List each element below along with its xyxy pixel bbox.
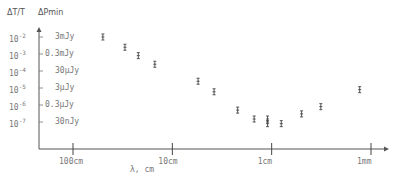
x-tick-label: 1cm bbox=[258, 158, 272, 166]
x-axis-title: λ, cm bbox=[130, 166, 154, 174]
axes bbox=[37, 27, 390, 152]
y-tick-label: 10-7 bbox=[9, 118, 26, 129]
error-bar-point bbox=[358, 87, 361, 93]
error-bar-point bbox=[213, 89, 216, 95]
error-bar-point bbox=[197, 78, 200, 84]
x-tick-label: 100cm bbox=[59, 158, 83, 166]
error-bar-point bbox=[137, 53, 140, 59]
error-bar-point bbox=[236, 107, 239, 113]
y-flux-label: 3μJy bbox=[55, 84, 74, 92]
error-bar-point bbox=[123, 44, 126, 50]
y-tick-label: 10-6 bbox=[9, 101, 26, 112]
x-axis-arrow-icon bbox=[384, 147, 389, 152]
y-tick-label: 10-4 bbox=[9, 67, 26, 78]
y-flux-label: 0.3mJy bbox=[45, 50, 74, 58]
x-tick-label: 1mm bbox=[357, 158, 371, 166]
y-flux-label: 30nJy bbox=[55, 118, 79, 126]
data-points bbox=[101, 34, 361, 127]
error-bar-point bbox=[153, 61, 156, 67]
error-bar-point bbox=[300, 111, 303, 117]
y-tick-label: 10-5 bbox=[9, 84, 26, 95]
error-bar-point bbox=[253, 116, 256, 122]
y-tick-label: 10-2 bbox=[9, 33, 26, 44]
header-dT-T: ΔT/T bbox=[7, 8, 25, 17]
header-dPmin: ΔPmin bbox=[38, 8, 63, 17]
error-bar-point bbox=[266, 121, 269, 127]
y-axis-arrow-icon bbox=[37, 27, 42, 32]
error-bar-point bbox=[280, 121, 283, 127]
y-tick-label: 10-3 bbox=[9, 50, 26, 61]
error-bar-point bbox=[319, 104, 322, 110]
y-flux-label: 30μJy bbox=[55, 67, 79, 75]
x-tick-label: 10cm bbox=[158, 158, 177, 166]
y-flux-label: 3mJy bbox=[55, 33, 74, 41]
y-ticks bbox=[39, 37, 43, 122]
y-flux-label: 0.3μJy bbox=[45, 101, 74, 109]
error-bar-point bbox=[101, 34, 104, 40]
